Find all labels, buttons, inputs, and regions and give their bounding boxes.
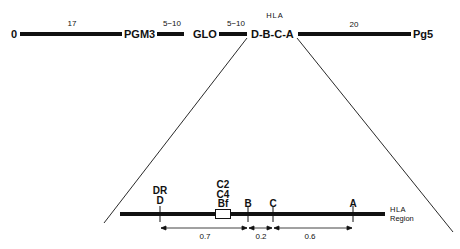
expansion-line-right [297,38,453,232]
locus-d: D [156,196,163,206]
arrow-b-c [249,226,272,230]
hla-region-label-line1: HLA [390,206,406,214]
locus-a: A [349,199,356,209]
segment-0-pgm3 [20,32,122,36]
segment-glo-hla [219,32,247,36]
marker-pgm3: PGM3 [124,29,155,40]
distance-0-pgm3: 17 [68,20,77,28]
segment-pgm3-glo [157,32,184,36]
segment-hla-pg5 [298,32,411,36]
c2-c4-bf-box [216,210,231,219]
marker-0: 0 [11,29,17,40]
distance-c-a: 0.6 [304,233,315,241]
hla-label-top: HLA [266,12,284,20]
arrow-d-b [161,226,247,230]
hla-region-label-line2: Region [390,215,414,223]
distance-hla-pg5: 20 [350,21,359,29]
marker-glo: GLO [193,29,217,40]
arrow-c-a [274,226,352,230]
locus-bf: Bf [218,199,229,209]
marker-hla-loci: D-B-C-A [251,29,294,40]
distance-b-c: 0.2 [255,233,266,241]
distance-d-b: 0.7 [199,233,210,241]
locus-c: C [269,199,276,209]
locus-b: B [244,199,251,209]
marker-pg5: Pg5 [413,29,433,40]
distance-glo-hla: 5−10 [227,20,245,28]
distance-pgm3-glo: 5−10 [163,20,181,28]
